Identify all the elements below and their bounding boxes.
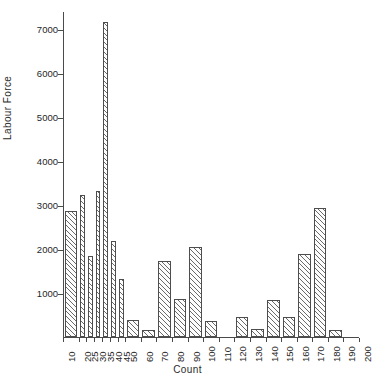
bar <box>298 254 311 337</box>
x-axis-tick-label: 170 <box>316 346 326 362</box>
bar <box>329 330 342 337</box>
bar <box>205 321 218 337</box>
y-axis-tick-label: 3000 <box>22 201 58 211</box>
x-axis-tick-label: 120 <box>238 346 248 362</box>
x-axis-tick-label: 100 <box>207 346 217 362</box>
x-axis-tick-label: 50 <box>129 351 139 362</box>
bar <box>88 256 93 337</box>
x-axis-tick-label: 140 <box>270 346 280 362</box>
bar <box>111 241 116 337</box>
bar <box>96 191 101 337</box>
x-axis-tick-label: 60 <box>145 351 155 362</box>
x-axis-tick-label: 70 <box>160 351 170 362</box>
plot-area <box>63 12 359 338</box>
y-axis-tick-label: 7000 <box>22 25 58 35</box>
y-axis-tick-mark <box>58 30 63 31</box>
bar <box>142 330 155 337</box>
y-axis-tick-mark <box>58 250 63 251</box>
x-axis-title: Count <box>0 364 375 375</box>
x-axis-tick-label: 200 <box>363 346 373 362</box>
bar <box>314 208 327 337</box>
y-axis-tick-mark <box>58 294 63 295</box>
bar <box>127 320 140 337</box>
y-axis-tick-labels: 1000200030004000500060007000 <box>18 0 58 380</box>
bar <box>251 329 264 337</box>
bar <box>174 299 187 337</box>
x-axis-tick-label: 110 <box>223 347 233 362</box>
x-axis-line <box>63 337 359 338</box>
x-axis-tick-label: 80 <box>176 351 186 362</box>
y-axis-tick-mark <box>58 206 63 207</box>
x-axis-tick-label: 180 <box>332 346 342 362</box>
bar <box>267 300 280 337</box>
bar <box>189 247 202 337</box>
y-axis-tick-mark <box>58 74 63 75</box>
bar <box>80 195 85 337</box>
bar <box>158 261 171 337</box>
y-axis-tick-label: 2000 <box>22 245 58 255</box>
bar <box>103 22 108 337</box>
y-axis-tick-label: 5000 <box>22 113 58 123</box>
bar <box>65 211 78 337</box>
bar <box>283 317 296 337</box>
x-axis-tick-label: 190 <box>347 346 357 362</box>
x-axis-tick-label: 130 <box>254 346 264 362</box>
y-axis-tick-mark <box>58 162 63 163</box>
bar <box>119 279 124 337</box>
y-axis-tick-label: 6000 <box>22 69 58 79</box>
x-axis-tick-label: 160 <box>301 346 311 362</box>
y-axis-tick-mark <box>58 118 63 119</box>
y-axis-tick-label: 4000 <box>22 157 58 167</box>
x-axis-tick-label: 10 <box>67 351 77 362</box>
y-axis-tick-label: 1000 <box>22 289 58 299</box>
x-axis-tick-label: 90 <box>192 351 202 362</box>
bar <box>236 317 249 337</box>
y-axis-title: Labour Force <box>2 20 13 140</box>
bar-chart: Labour Force 100020003000400050006000700… <box>0 0 375 380</box>
x-axis-tick-label: 150 <box>285 346 295 362</box>
